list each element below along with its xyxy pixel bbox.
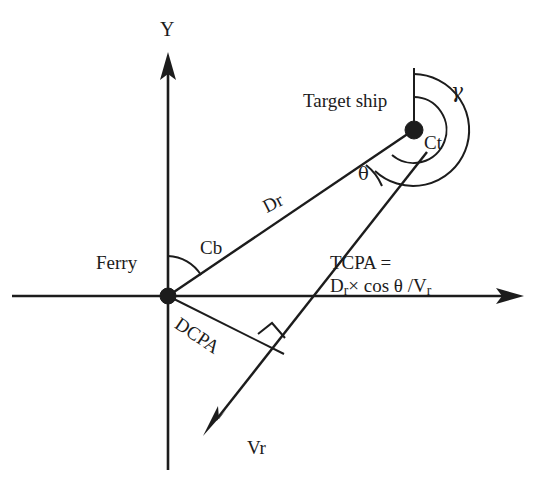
x-axis: [12, 288, 524, 304]
target-ship-label: Target ship: [303, 90, 387, 111]
tcpa-formula-line1: TCPA =: [330, 252, 391, 273]
diagram-vector-layer: [0, 0, 546, 487]
relative-velocity-label-vr: Vr: [247, 437, 266, 458]
ferry-node-dot: [160, 288, 176, 304]
ferry-label: Ferry: [96, 252, 137, 273]
target-ship-node-dot: [405, 121, 423, 139]
tcpa-formula-line2: Dr× cos θ /Vr: [330, 275, 431, 298]
theta-angle-label: θ: [358, 164, 369, 184]
bearing-angle-label-cb: Cb: [200, 237, 222, 258]
tcpa-dr-base: D: [330, 275, 344, 296]
diagram-canvas: Y Ferry Cb Target ship γ Ct θ Dr DCPA Vr…: [0, 0, 546, 487]
tcpa-vr-subscript: r: [427, 283, 432, 298]
course-angle-label-ct: Ct: [424, 132, 442, 153]
gamma-angle-label: γ: [451, 80, 463, 102]
tcpa-formula: TCPA = Dr× cos θ /Vr: [330, 252, 431, 299]
y-axis-label: Y: [160, 18, 174, 40]
tcpa-formula-middle: × cos θ /V: [348, 275, 426, 296]
bearing-angle-arc-cb: [168, 256, 201, 275]
y-axis: [160, 52, 176, 470]
